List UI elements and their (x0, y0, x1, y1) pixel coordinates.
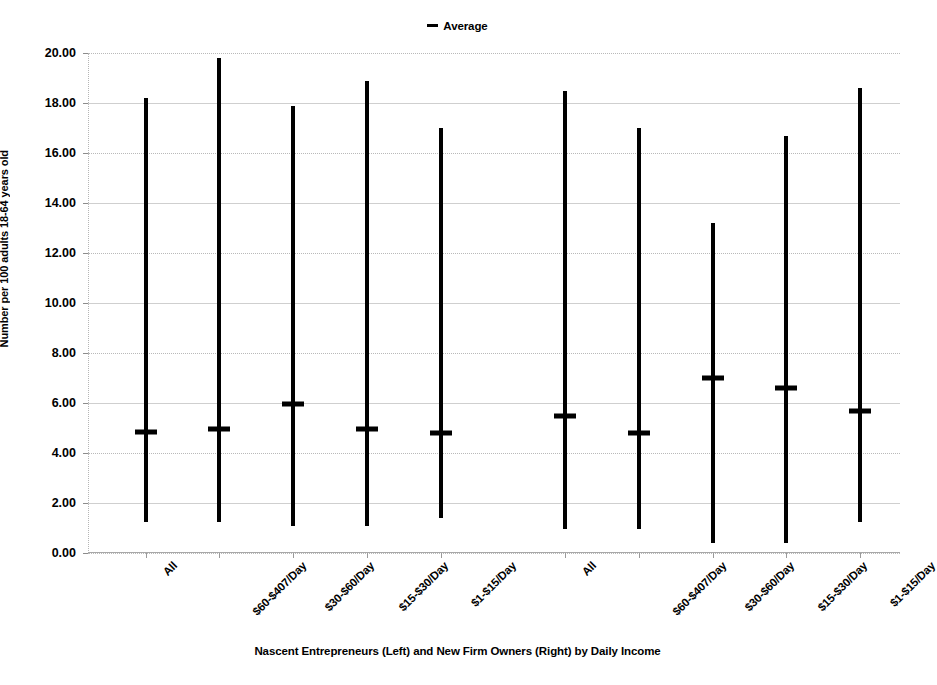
chart-legend: Average (0, 17, 915, 32)
y-tick-mark (83, 253, 88, 254)
average-marker (849, 408, 871, 413)
gridline (88, 153, 900, 154)
y-tick-mark (83, 103, 88, 104)
y-tick-label: 4.00 (6, 446, 76, 460)
range-bar (217, 58, 221, 522)
x-tick-label: $15-$30/Day (816, 559, 870, 613)
x-axis-title: Nascent Entrepreneurs (Left) and New Fir… (0, 645, 915, 657)
average-marker (702, 376, 724, 381)
gridline (88, 503, 900, 504)
y-tick-mark (83, 353, 88, 354)
y-tick-mark (83, 53, 88, 54)
average-marker (775, 386, 797, 391)
range-bar (439, 128, 443, 518)
x-tick-mark (639, 553, 640, 558)
y-tick-label: 0.00 (6, 546, 76, 560)
x-tick-mark (219, 553, 220, 558)
gridline (88, 553, 900, 554)
x-tick-label: $60-$407/Day (670, 559, 728, 617)
y-tick-mark (83, 153, 88, 154)
x-tick-mark (713, 553, 714, 558)
gridline (88, 303, 900, 304)
range-bar (291, 106, 295, 526)
average-marker (135, 429, 157, 434)
y-tick-mark (83, 203, 88, 204)
average-marker (356, 427, 378, 432)
range-bar (365, 81, 369, 526)
y-tick-label: 6.00 (6, 396, 76, 410)
gridline (88, 403, 900, 404)
x-tick-mark (441, 553, 442, 558)
x-tick-label: $30-$60/Day (742, 559, 796, 613)
gridline (88, 53, 900, 54)
y-tick-mark (83, 403, 88, 404)
range-bar (144, 98, 148, 522)
y-tick-mark (83, 303, 88, 304)
gridline (88, 353, 900, 354)
gridline (88, 203, 900, 204)
y-tick-mark (83, 453, 88, 454)
x-tick-label: $30-$60/Day (323, 559, 377, 613)
y-tick-label: 2.00 (6, 496, 76, 510)
legend-label: Average (443, 20, 487, 32)
x-tick-mark (565, 553, 566, 558)
y-tick-mark (83, 553, 88, 554)
x-tick-mark (860, 553, 861, 558)
x-axis-line (88, 552, 900, 553)
range-bar (784, 136, 788, 544)
y-tick-mark (83, 503, 88, 504)
x-tick-mark (293, 553, 294, 558)
y-tick-label: 18.00 (6, 96, 76, 110)
plot-area: 0.002.004.006.008.0010.0012.0014.0016.00… (88, 53, 900, 553)
y-axis-title: Number per 100 adults 18-64 years old (0, 150, 18, 347)
average-marker (208, 427, 230, 432)
x-tick-label: All (580, 559, 598, 577)
range-bar (711, 223, 715, 543)
average-marker (554, 413, 576, 418)
x-tick-mark (367, 553, 368, 558)
y-tick-label: 20.00 (6, 46, 76, 60)
x-tick-label: $1-$15/Day (468, 559, 518, 609)
x-tick-label: $60-$407/Day (251, 559, 309, 617)
average-marker (282, 402, 304, 407)
x-tick-mark (786, 553, 787, 558)
average-marker (430, 431, 452, 436)
range-bar (637, 128, 641, 529)
range-bar (858, 88, 862, 522)
gridline (88, 453, 900, 454)
range-bar (563, 91, 567, 530)
x-tick-mark (146, 553, 147, 558)
x-tick-label: All (160, 559, 178, 577)
y-tick-label: 8.00 (6, 346, 76, 360)
gridline (88, 103, 900, 104)
x-tick-label: $15-$30/Day (396, 559, 450, 613)
legend-entry-average: Average (427, 20, 487, 32)
dash-marker-icon (427, 24, 438, 27)
gridline (88, 253, 900, 254)
x-tick-label: $1-$15/Day (888, 559, 937, 609)
average-marker (628, 431, 650, 436)
